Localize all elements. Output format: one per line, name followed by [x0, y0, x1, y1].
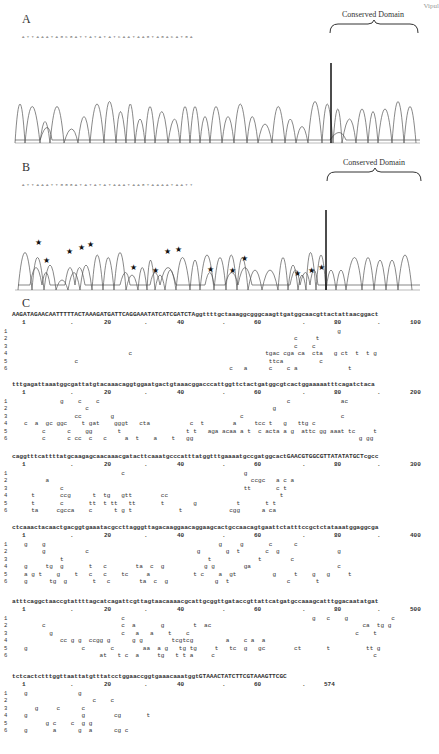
alignment-block-4: ctcaaactacaactgacggtgaaatacgccttagggttag… — [12, 523, 432, 585]
variant-row: 5 g c c g g — [12, 720, 432, 727]
alignment-block-6: tctcactctttggttaattatgtttatcctggaaccggtg… — [12, 672, 432, 734]
variant-row: 4 t ccg t tg gtt cc t — [12, 492, 432, 499]
variant-row: 5g c c aa a g tg tg t tc g gc ct t tt g — [12, 645, 432, 652]
conserved-domain-label-a: Conserved Domain — [342, 10, 404, 19]
panel-label-b: B — [22, 160, 30, 175]
reference-sequence: caggtttcattttatgcaagagcaacaaacgatacttcaa… — [12, 452, 432, 461]
variant-row: 5a g t g t c c tc a t c a gt g t g g t — [12, 571, 432, 578]
variant-row: 6 ta cgcca c t g t t cgg a ca — [12, 507, 432, 514]
variant-row: 1 c g — [12, 470, 432, 477]
svg-text:★: ★ — [130, 263, 137, 272]
conserved-domain-label-b: Conserved Domain — [343, 158, 405, 167]
svg-text:★: ★ — [43, 256, 50, 265]
alignment-block-3: caggtttcattttatgcaagagcaacaaacgatacttcaa… — [12, 452, 432, 514]
chromatogram-b: ★★★ ★★★ ★★★ ★★★ ★★★ — [0, 210, 439, 295]
variant-row: 6 at t c a tg t t a c c — [12, 652, 432, 659]
variant-row: 5 c c gg t t t aga acaa a t c acta a g a… — [12, 428, 432, 435]
variant-row: 2 c c a g t ac ca tg g — [12, 622, 432, 629]
variant-row: 4c a gc ggc t gat gggt cta c t a tcc t g… — [12, 420, 432, 427]
position-ruler: 1.20.40.60.80.100 — [12, 319, 432, 328]
alignment-block-1: AAGATAGAACAATTTTTACTAAAGATGATTCAGGAAATAT… — [12, 310, 432, 372]
variant-row: 4g tg g t c ta c g g g ga c — [12, 563, 432, 570]
position-ruler: 1.20.40.60.574 — [12, 681, 432, 690]
panel-label-c: C — [22, 296, 30, 311]
variant-row: 5 t c tt t tt tt t g t t t — [12, 500, 432, 507]
svg-text:★: ★ — [35, 238, 42, 247]
variant-row: 6g tg g t c ta c g g t c t — [12, 578, 432, 585]
reference-sequence: AAGATAGAACAATTTTTACTAAAGATGATTCAGGAAATAT… — [12, 310, 432, 319]
variant-row: 1 g — [12, 328, 432, 335]
variant-row: 2 c t — [12, 335, 432, 342]
variant-row: 4g g cg t — [12, 712, 432, 719]
variant-row: 3 t t t c — [12, 556, 432, 563]
reference-sequence: tttgagattaaatggcgattatgtacaaacaggtggaatg… — [12, 380, 432, 389]
svg-text:★: ★ — [207, 265, 214, 274]
base-calls-a: A T T A A A T A G C G A T T A T A T A T … — [22, 35, 422, 43]
variant-row: 2 a ccgc a c a — [12, 477, 432, 484]
alignment-block-5: atttcaggctaaccgtattttagcatcagattcgttagta… — [12, 597, 432, 659]
variant-row: 3 g c c — [12, 705, 432, 712]
svg-text:★: ★ — [241, 254, 248, 263]
variant-row: 4 c tgac cga ca cta g ct t t g — [12, 350, 432, 357]
variant-row: 6 c a c c a t — [12, 365, 432, 372]
svg-text:★: ★ — [164, 247, 171, 256]
svg-text:★: ★ — [66, 247, 73, 256]
chromatogram-a — [0, 55, 439, 145]
variant-row: 1g g — [12, 690, 432, 697]
alignment-block-2: tttgagattaaatggcgattatgtacaaacaggtggaatg… — [12, 380, 432, 442]
variant-row: 6 c c cc c c a t a t gg g gg — [12, 435, 432, 442]
svg-text:★: ★ — [294, 269, 301, 278]
variant-row: 2 c c — [12, 697, 432, 704]
variant-row: 1g g g g c c — [12, 541, 432, 548]
variant-row: 3 c tt c t — [12, 485, 432, 492]
page-corner-text: Vipul — [423, 2, 439, 10]
position-ruler: 1.20.40.60.80.200 — [12, 389, 432, 398]
variant-row: 4 cc g g ccgg g g g tcgtcg a c a a — [12, 637, 432, 644]
svg-text:★: ★ — [308, 266, 315, 275]
variant-row: 3 g c a a t c c t — [12, 630, 432, 637]
reference-sequence: ctcaaactacaactgacggtgaaatacgccttagggttag… — [12, 523, 432, 532]
variant-row: 6g a g a cg c — [12, 727, 432, 734]
variant-row: 1 g c c c ac — [12, 398, 432, 405]
svg-text:★: ★ — [152, 266, 159, 275]
position-ruler: 1.20.40.60.80.500 — [12, 606, 432, 615]
base-calls-b: A T T A A A T T G G G A T A T A T A T A … — [22, 183, 422, 191]
variant-star-icons: ★★★ ★★★ ★★★ ★★★ ★★★ — [35, 238, 325, 278]
variant-row: 2 g c g g t c g g — [12, 548, 432, 555]
conserved-domain-brace-b — [325, 168, 425, 182]
conserved-domain-brace-a — [328, 20, 420, 34]
variant-row: 3 cc g c c — [12, 413, 432, 420]
variant-row: 2 c g — [12, 405, 432, 412]
svg-text:★: ★ — [78, 243, 85, 252]
variant-row: 5 c ttca c — [12, 358, 432, 365]
variant-row: 1 c g c g c — [12, 615, 432, 622]
variant-row: 3 c c — [12, 343, 432, 350]
position-ruler: 1.20.40.60.80.300 — [12, 461, 432, 470]
svg-text:★: ★ — [318, 263, 325, 272]
svg-text:★: ★ — [229, 266, 236, 275]
reference-sequence: tctcactctttggttaattatgtttatcctggaaccggtg… — [12, 672, 432, 681]
panel-label-a: A — [22, 12, 31, 27]
position-ruler: 1.20.40.60.80.400 — [12, 532, 432, 541]
svg-text:★: ★ — [175, 245, 182, 254]
reference-sequence: atttcaggctaaccgtattttagcatcagattcgttagta… — [12, 597, 432, 606]
svg-text:★: ★ — [87, 240, 94, 249]
